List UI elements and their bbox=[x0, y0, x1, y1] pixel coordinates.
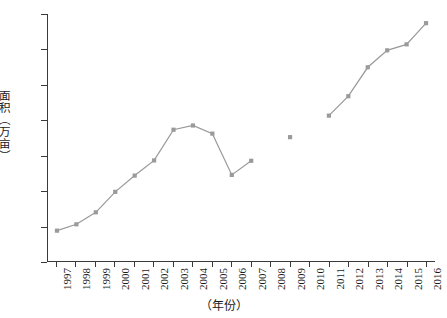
x-tick-mark bbox=[309, 262, 310, 267]
series-canvas bbox=[48, 14, 435, 261]
x-tick-label: 1998 bbox=[80, 268, 92, 290]
x-tick-label: 1999 bbox=[100, 268, 112, 290]
data-point-marker bbox=[113, 190, 117, 194]
y-tick-mark bbox=[41, 262, 47, 263]
data-point-marker bbox=[327, 114, 331, 118]
y-axis-title-label: 面积（万亩） bbox=[0, 90, 12, 162]
data-point-marker bbox=[94, 210, 98, 214]
x-tick-label: 2001 bbox=[139, 268, 151, 290]
area-line-chart: 面积（万亩） 05001 0001 5002 0002 5003 0003 50… bbox=[0, 0, 447, 318]
data-point-marker bbox=[230, 173, 234, 177]
x-tick-mark bbox=[95, 262, 96, 267]
x-tick-label: 2010 bbox=[314, 268, 326, 290]
x-tick-label: 2007 bbox=[256, 268, 268, 290]
x-tick-mark bbox=[114, 262, 115, 267]
y-axis-title: 面积（万亩） bbox=[0, 90, 12, 162]
x-tick-label: 2013 bbox=[373, 268, 385, 290]
data-point-marker bbox=[249, 159, 253, 163]
x-tick-mark bbox=[348, 262, 349, 267]
data-point-marker bbox=[171, 128, 175, 132]
x-tick-mark bbox=[56, 262, 57, 267]
x-tick-mark bbox=[153, 262, 154, 267]
x-tick-label: 1997 bbox=[61, 268, 73, 290]
x-tick-label: 2011 bbox=[334, 268, 346, 290]
series-line bbox=[57, 126, 251, 231]
x-tick-mark bbox=[134, 262, 135, 267]
x-tick-label: 2015 bbox=[412, 268, 424, 290]
x-tick-mark bbox=[212, 262, 213, 267]
data-point-marker bbox=[405, 42, 409, 46]
x-tick-mark bbox=[290, 262, 291, 267]
data-point-marker bbox=[152, 158, 156, 162]
series-line bbox=[329, 23, 426, 115]
data-point-marker bbox=[55, 229, 59, 233]
data-point-marker bbox=[424, 21, 428, 25]
x-tick-label: 2000 bbox=[119, 268, 131, 290]
data-point-marker bbox=[288, 135, 292, 139]
x-tick-label: 2004 bbox=[197, 268, 209, 290]
x-tick-mark bbox=[192, 262, 193, 267]
x-tick-mark bbox=[329, 262, 330, 267]
data-point-marker bbox=[385, 48, 389, 52]
x-tick-label: 2006 bbox=[236, 268, 248, 290]
x-tick-mark bbox=[75, 262, 76, 267]
x-tick-mark bbox=[231, 262, 232, 267]
x-tick-mark bbox=[426, 262, 427, 267]
x-tick-label: 2009 bbox=[295, 268, 307, 290]
data-point-marker bbox=[191, 123, 195, 127]
x-tick-mark bbox=[173, 262, 174, 267]
x-tick-mark bbox=[387, 262, 388, 267]
x-tick-label: 2008 bbox=[275, 268, 287, 290]
x-tick-label: 2002 bbox=[158, 268, 170, 290]
plot-area bbox=[47, 14, 435, 262]
x-tick-label: 2014 bbox=[392, 268, 404, 290]
x-tick-mark bbox=[270, 262, 271, 267]
data-point-marker bbox=[210, 132, 214, 136]
x-tick-mark bbox=[407, 262, 408, 267]
data-point-marker bbox=[346, 94, 350, 98]
x-tick-label: 2016 bbox=[431, 268, 443, 290]
data-point-marker bbox=[74, 222, 78, 226]
x-tick-label: 2003 bbox=[178, 268, 190, 290]
x-tick-mark bbox=[368, 262, 369, 267]
data-point-marker bbox=[133, 174, 137, 178]
data-point-marker bbox=[366, 65, 370, 69]
x-tick-label: 2005 bbox=[217, 268, 229, 290]
x-tick-mark bbox=[251, 262, 252, 267]
x-tick-label: 2012 bbox=[353, 268, 365, 290]
x-axis-title: （年份） bbox=[0, 296, 447, 314]
